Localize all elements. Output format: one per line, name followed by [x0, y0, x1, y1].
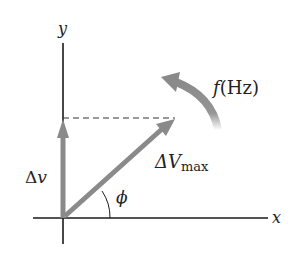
- delta-v-symbol: ΔV: [154, 151, 183, 172]
- phi-label: ϕ: [116, 187, 128, 207]
- frequency-label: f(Hz): [211, 77, 259, 98]
- phasor-diagram: y x Δv ΔVmax ϕ f(Hz): [0, 0, 296, 253]
- delta-v-arrow: [57, 119, 69, 218]
- max-subscript: max: [181, 159, 209, 174]
- delta-symbol: Δ: [25, 167, 37, 187]
- delta-v-max-label: ΔVmax: [154, 151, 209, 174]
- x-axis-label: x: [272, 208, 281, 227]
- delta-v-label: Δv: [25, 167, 47, 187]
- hz-unit: (Hz): [220, 77, 259, 98]
- y-axis-label: y: [57, 19, 68, 38]
- angle-arc: [102, 191, 110, 218]
- v-symbol: v: [37, 167, 47, 187]
- phasor-diagram-svg: y x Δv ΔVmax ϕ f(Hz): [0, 0, 296, 253]
